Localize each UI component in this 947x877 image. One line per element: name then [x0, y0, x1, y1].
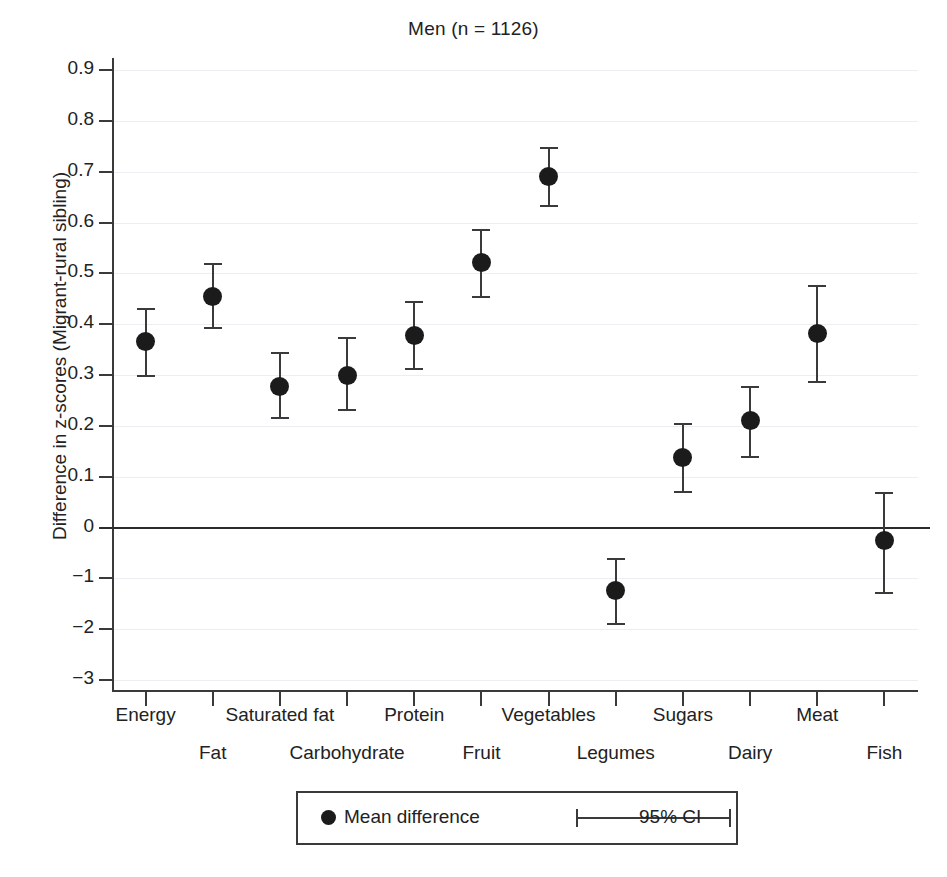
- ci-cap-upper: [875, 492, 893, 494]
- ci-cap-lower: [674, 491, 692, 493]
- legend-ci-cap-right-icon: [729, 809, 731, 827]
- ci-cap-upper: [137, 308, 155, 310]
- gridline: [112, 680, 918, 681]
- x-axis-line: [112, 690, 918, 692]
- plot-area: 0.90.80.70.60.50.40.30.20.10−1−2−3: [112, 58, 918, 692]
- y-tick-label: 0.3: [24, 362, 94, 384]
- gridline: [112, 324, 918, 325]
- gridline: [112, 223, 918, 224]
- y-tick-label: 0.4: [24, 311, 94, 333]
- gridline: [112, 477, 918, 478]
- y-tick: [99, 374, 112, 376]
- y-tick-label: 0.2: [24, 413, 94, 435]
- mean-difference-marker: [270, 377, 289, 396]
- ci-cap-upper: [808, 285, 826, 287]
- y-tick: [99, 577, 112, 579]
- gridline: [112, 121, 918, 122]
- ci-cap-upper: [741, 386, 759, 388]
- y-tick-label: −2: [24, 616, 94, 638]
- gridline: [112, 70, 918, 71]
- y-tick: [99, 425, 112, 427]
- mean-difference-marker: [875, 531, 894, 550]
- y-tick-label: 0.8: [24, 108, 94, 130]
- y-tick: [99, 120, 112, 122]
- mean-difference-marker: [741, 411, 760, 430]
- gridline: [112, 172, 918, 173]
- gridline: [112, 578, 918, 579]
- ci-cap-lower: [338, 409, 356, 411]
- ci-cap-lower: [875, 592, 893, 594]
- legend-mean-dot-icon: [321, 810, 336, 825]
- ci-cap-upper: [271, 352, 289, 354]
- ci-cap-upper: [540, 147, 558, 149]
- ci-cap-upper: [338, 337, 356, 339]
- ci-cap-lower: [204, 327, 222, 329]
- y-tick-label: 0: [24, 515, 94, 537]
- ci-cap-lower: [472, 296, 490, 298]
- ci-cap-lower: [808, 381, 826, 383]
- ci-cap-upper: [607, 558, 625, 560]
- y-tick-label: 0.1: [24, 464, 94, 486]
- y-tick: [99, 679, 112, 681]
- ci-cap-lower: [607, 623, 625, 625]
- gridline: [112, 426, 918, 427]
- mean-difference-marker: [606, 581, 625, 600]
- ci-cap-upper: [405, 301, 423, 303]
- chart-title: Men (n = 1126): [0, 18, 947, 40]
- y-tick: [99, 628, 112, 630]
- y-tick-label: 0.9: [24, 57, 94, 79]
- ci-cap-lower: [540, 205, 558, 207]
- chart-legend: Mean difference 95% CI: [296, 791, 738, 845]
- mean-difference-marker: [539, 167, 558, 186]
- x-tick-label: Fish: [789, 742, 947, 764]
- mean-difference-marker: [338, 366, 357, 385]
- ci-cap-lower: [741, 456, 759, 458]
- ci-cap-lower: [271, 417, 289, 419]
- ci-cap-upper: [472, 229, 490, 231]
- mean-difference-marker: [673, 448, 692, 467]
- y-tick: [99, 476, 112, 478]
- zero-reference-line: [100, 527, 930, 529]
- mean-difference-marker: [405, 326, 424, 345]
- y-tick-label: 0.5: [24, 260, 94, 282]
- y-tick: [99, 171, 112, 173]
- legend-label-confidence-interval: 95% CI: [639, 806, 701, 828]
- mean-difference-marker: [472, 253, 491, 272]
- gridline: [112, 375, 918, 376]
- ci-cap-lower: [405, 368, 423, 370]
- legend-label-mean-difference: Mean difference: [344, 806, 480, 828]
- ci-cap-upper: [674, 423, 692, 425]
- y-tick: [99, 272, 112, 274]
- y-tick-label: −1: [24, 565, 94, 587]
- gridline: [112, 629, 918, 630]
- ci-cap-lower: [137, 375, 155, 377]
- mean-difference-marker: [808, 324, 827, 343]
- ci-cap-upper: [204, 263, 222, 265]
- mean-difference-marker: [136, 332, 155, 351]
- mean-difference-marker: [203, 287, 222, 306]
- y-tick-label: 0.7: [24, 159, 94, 181]
- gridline: [112, 273, 918, 274]
- y-tick-label: 0.6: [24, 210, 94, 232]
- y-tick-label: −3: [24, 667, 94, 689]
- x-tick-label: Meat: [722, 704, 912, 726]
- y-axis-line: [112, 58, 114, 692]
- forest-plot-figure: Men (n = 1126) Difference in z-scores (M…: [0, 0, 947, 877]
- y-tick: [99, 69, 112, 71]
- y-tick: [99, 323, 112, 325]
- y-tick: [99, 222, 112, 224]
